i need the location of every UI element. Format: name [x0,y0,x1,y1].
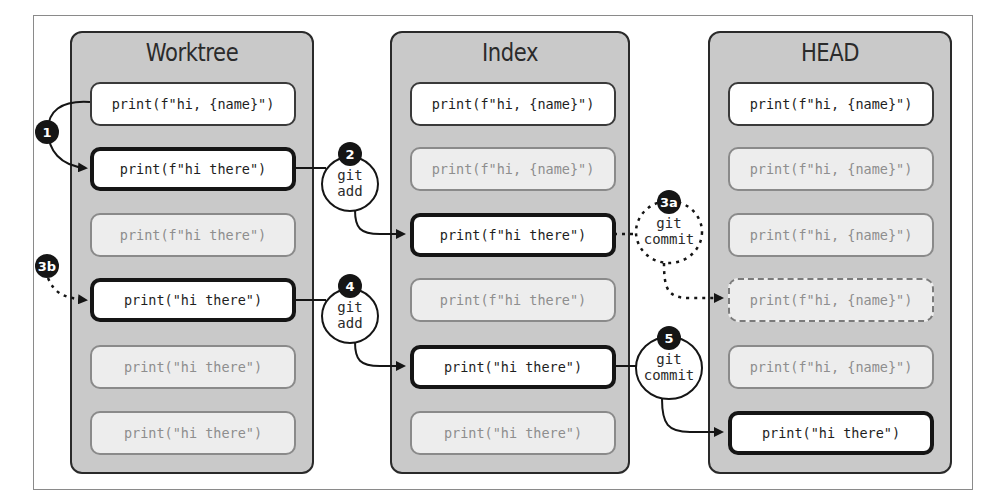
step-3a-label-line1: git [636,215,702,231]
step-1-badge: 1 [35,120,59,144]
step-5-label: git commit [636,351,702,383]
step-2-label-line2: add [322,183,378,199]
step-3b-badge: 3b [35,254,59,278]
step-4-label-line1: git [322,299,378,315]
step-2-label: git add [322,167,378,199]
step-5-label-line1: git [636,351,702,367]
step-4-badge: 4 [338,274,362,298]
connector-arrows [0,0,983,502]
step-3a-label: git commit [636,215,702,247]
step-4-label: git add [322,299,378,331]
step-2-label-line1: git [322,167,378,183]
step-5-label-line2: commit [636,367,702,383]
step-2-badge: 2 [338,142,362,166]
step-5-badge: 5 [657,326,681,350]
step-3a-badge: 3a [657,190,681,214]
step-3a-label-line2: commit [636,231,702,247]
step-4-label-line2: add [322,315,378,331]
